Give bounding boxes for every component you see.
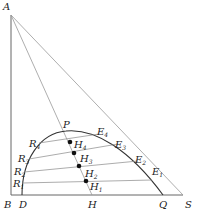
- phase-diagram: A B D H Q S P R1 R2 R3 R4 E1 E2 E3 E4 H1…: [0, 0, 200, 220]
- label-D: D: [18, 199, 27, 210]
- label-H: H: [87, 199, 97, 210]
- label-S: S: [185, 199, 192, 210]
- label-R1: R1: [12, 178, 24, 190]
- label-H1: H1: [89, 181, 103, 193]
- label-H3: H3: [79, 153, 93, 165]
- label-E1: E1: [151, 166, 163, 178]
- label-P: P: [62, 119, 70, 130]
- label-Q: Q: [159, 199, 167, 210]
- label-E4: E4: [96, 126, 108, 138]
- label-H4: H4: [73, 139, 87, 151]
- label-R3: R3: [17, 153, 30, 165]
- point-H4: [68, 140, 73, 145]
- label-E2: E2: [134, 154, 146, 166]
- label-B: B: [3, 199, 11, 210]
- label-E3: E3: [114, 139, 126, 151]
- point-H2: [77, 164, 82, 169]
- label-A: A: [2, 1, 10, 12]
- label-R4: R4: [28, 138, 41, 150]
- point-H1: [84, 179, 89, 184]
- point-H3: [72, 151, 77, 156]
- label-H2: H2: [84, 168, 98, 180]
- label-R2: R2: [13, 166, 26, 178]
